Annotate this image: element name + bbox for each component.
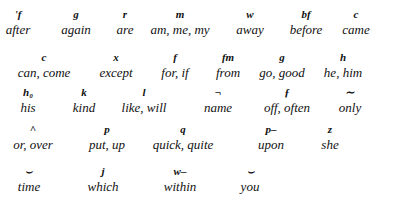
shorthand-entry: jwhich: [87, 165, 118, 194]
shorthand-entry: gagain: [61, 8, 91, 37]
shorthand-symbol: m: [150, 8, 209, 20]
shorthand-symbol: p: [89, 123, 125, 135]
shorthand-symbol: h: [324, 51, 362, 63]
word-meaning: which: [87, 179, 118, 194]
shorthand-symbol: ⌣: [18, 165, 40, 177]
word-meaning: again: [61, 22, 91, 37]
shorthand-symbol: c: [342, 8, 369, 20]
shorthand-symbol: f: [161, 51, 188, 63]
shorthand-entry: rare: [117, 8, 134, 37]
shorthand-entry: hhe, him: [324, 51, 362, 80]
word-meaning: after: [6, 22, 31, 37]
word-meaning: before: [290, 22, 323, 37]
word-meaning: within: [164, 179, 197, 194]
shorthand-entry: mam, me, my: [150, 8, 209, 37]
shorthand-symbol: w: [236, 8, 263, 20]
shorthand-symbol: ^: [13, 123, 53, 135]
shorthand-entry: 'fafter: [6, 8, 31, 37]
shorthand-symbol: h₀: [20, 86, 35, 98]
shorthand-entry: qquick, quite: [153, 123, 214, 152]
shorthand-symbol: ⌣: [241, 165, 260, 177]
word-meaning: can, come: [18, 65, 71, 80]
shorthand-symbol: k: [73, 86, 95, 98]
word-meaning: came: [342, 22, 369, 37]
word-meaning: name: [204, 100, 232, 115]
word-meaning: am, me, my: [150, 22, 209, 37]
shorthand-symbol: q: [153, 123, 214, 135]
shorthand-entry: llike, will: [122, 86, 167, 115]
shorthand-entry: ggo, good: [259, 51, 305, 80]
shorthand-entry: kkind: [73, 86, 95, 115]
shorthand-entry: w–within: [164, 165, 197, 194]
shorthand-symbol: w–: [164, 165, 197, 177]
word-meaning: for, if: [161, 65, 188, 80]
word-meaning: upon: [258, 137, 284, 152]
word-meaning: his: [20, 100, 35, 115]
shorthand-symbol: l: [122, 86, 167, 98]
shorthand-symbol: j: [87, 165, 118, 177]
shorthand-entry: fmfrom: [216, 51, 240, 80]
word-meaning: quick, quite: [153, 137, 214, 152]
word-meaning: go, good: [259, 65, 305, 80]
shorthand-entry: xexcept: [99, 51, 132, 80]
shorthand-symbol: g: [61, 8, 91, 20]
shorthand-entry: ^or, over: [13, 123, 53, 152]
shorthand-symbol: 'f: [6, 8, 31, 20]
shorthand-symbol: x: [99, 51, 132, 63]
word-meaning: put, up: [89, 137, 125, 152]
word-meaning: except: [99, 65, 132, 80]
shorthand-entry: h₀his: [20, 86, 35, 115]
word-meaning: or, over: [13, 137, 53, 152]
shorthand-entry: ⌣time: [18, 165, 40, 194]
shorthand-symbol: ƒ: [264, 86, 310, 98]
shorthand-symbol: g: [259, 51, 305, 63]
shorthand-entry: ∼only: [339, 86, 361, 115]
shorthand-entry: ¬name: [204, 86, 232, 115]
word-meaning: are: [117, 22, 134, 37]
word-meaning: like, will: [122, 100, 167, 115]
shorthand-symbol: r: [117, 8, 134, 20]
shorthand-symbol: z: [321, 123, 338, 135]
shorthand-entry: bfbefore: [290, 8, 323, 37]
shorthand-entry: ccame: [342, 8, 369, 37]
word-meaning: kind: [73, 100, 95, 115]
word-meaning: only: [339, 100, 361, 115]
word-meaning: she: [321, 137, 338, 152]
shorthand-symbol: ¬: [204, 86, 232, 98]
shorthand-entry: ƒoff, often: [264, 86, 310, 115]
shorthand-entry: ffor, if: [161, 51, 188, 80]
shorthand-entry: pput, up: [89, 123, 125, 152]
shorthand-entry: zshe: [321, 123, 338, 152]
word-meaning: away: [236, 22, 263, 37]
shorthand-symbol: fm: [216, 51, 240, 63]
shorthand-symbol: p–: [258, 123, 284, 135]
shorthand-symbol: c: [18, 51, 71, 63]
word-meaning: from: [216, 65, 240, 80]
word-meaning: you: [241, 179, 260, 194]
shorthand-symbol: bf: [290, 8, 323, 20]
word-meaning: he, him: [324, 65, 362, 80]
shorthand-entry: ccan, come: [18, 51, 71, 80]
shorthand-entry: p–upon: [258, 123, 284, 152]
word-meaning: time: [18, 179, 40, 194]
shorthand-entry: waway: [236, 8, 263, 37]
word-meaning: off, often: [264, 100, 310, 115]
shorthand-entry: ⌣you: [241, 165, 260, 194]
shorthand-symbol: ∼: [339, 86, 361, 98]
